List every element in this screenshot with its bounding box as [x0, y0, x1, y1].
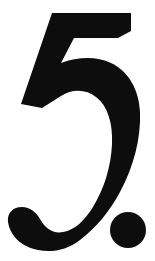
- image-canvas: 5.: [0, 0, 155, 261]
- period-dot: [110, 212, 146, 248]
- numeral-five-period-glyph: [0, 0, 155, 261]
